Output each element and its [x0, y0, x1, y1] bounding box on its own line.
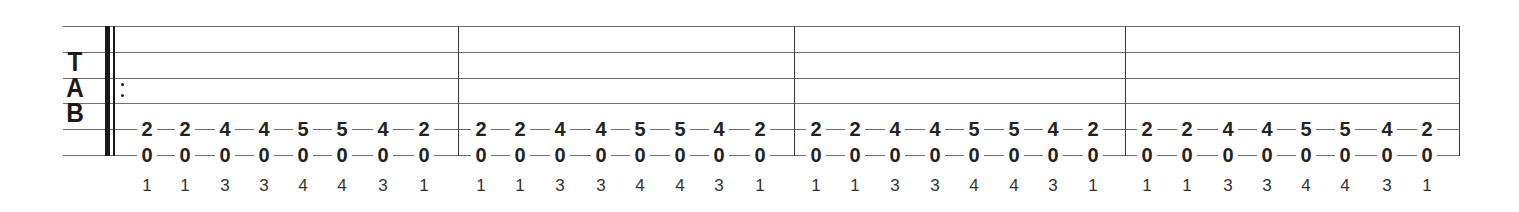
fingering-number: 3	[709, 177, 729, 195]
fret-string5: 4	[709, 120, 729, 138]
fret-string6: 0	[925, 146, 945, 164]
fret-string5: 2	[510, 120, 530, 138]
fingering-number: 3	[1218, 177, 1238, 195]
fret-string5: 2	[1137, 120, 1157, 138]
fingering-number: 3	[254, 177, 274, 195]
fret-string6: 0	[1218, 146, 1238, 164]
fret-string6: 0	[1417, 146, 1437, 164]
fingering-number: 1	[471, 177, 491, 195]
fret-string5: 2	[845, 120, 865, 138]
fret-string6: 0	[964, 146, 984, 164]
barline-3	[1125, 26, 1126, 156]
fret-string5: 2	[414, 120, 434, 138]
tab-clef-b: B	[66, 101, 84, 125]
fret-string5: 2	[1083, 120, 1103, 138]
tab-clef-a: A	[66, 76, 84, 100]
fingering-number: 4	[670, 177, 690, 195]
tab-clef-t: T	[66, 50, 84, 74]
fret-string6: 0	[885, 146, 905, 164]
start-repeat-thick-bar	[105, 26, 110, 156]
fret-string6: 0	[1335, 146, 1355, 164]
fingering-number: 1	[1083, 177, 1103, 195]
fret-string5: 4	[373, 120, 393, 138]
fret-string6: 0	[591, 146, 611, 164]
fret-string5: 4	[550, 120, 570, 138]
fingering-number: 4	[1335, 177, 1355, 195]
fingering-number: 3	[550, 177, 570, 195]
fret-string6: 0	[1296, 146, 1316, 164]
string-line-2	[63, 52, 1460, 53]
fret-string5: 4	[1257, 120, 1277, 138]
fret-string6: 0	[750, 146, 770, 164]
fingering-number: 1	[175, 177, 195, 195]
fingering-number: 1	[845, 177, 865, 195]
fingering-number: 1	[1137, 177, 1157, 195]
fret-string5: 4	[1377, 120, 1397, 138]
fret-string6: 0	[1137, 146, 1157, 164]
fingering-number: 1	[1417, 177, 1437, 195]
fret-string6: 0	[845, 146, 865, 164]
fret-string5: 5	[670, 120, 690, 138]
fret-string6: 0	[550, 146, 570, 164]
fingering-number: 1	[414, 177, 434, 195]
fret-string5: 2	[471, 120, 491, 138]
fingering-number: 3	[373, 177, 393, 195]
fret-string6: 0	[1177, 146, 1197, 164]
fret-string6: 0	[1004, 146, 1024, 164]
fret-string6: 0	[471, 146, 491, 164]
fingering-number: 4	[1004, 177, 1024, 195]
fingering-number: 3	[1043, 177, 1063, 195]
fingering-number: 3	[215, 177, 235, 195]
fret-string6: 0	[1083, 146, 1103, 164]
fret-string6: 0	[332, 146, 352, 164]
fret-string6: 0	[254, 146, 274, 164]
string-line-1	[63, 26, 1460, 27]
fingering-number: 4	[964, 177, 984, 195]
fret-string5: 4	[925, 120, 945, 138]
string-line-4	[63, 103, 1460, 104]
fret-string5: 5	[630, 120, 650, 138]
fret-string5: 2	[1177, 120, 1197, 138]
guitar-tab-staff: T A B 2012014034035045044032012012014034…	[0, 0, 1519, 212]
fret-string6: 0	[175, 146, 195, 164]
fret-string5: 5	[964, 120, 984, 138]
fret-string6: 0	[1377, 146, 1397, 164]
fingering-number: 4	[1296, 177, 1316, 195]
fingering-number: 4	[332, 177, 352, 195]
fret-string6: 0	[1043, 146, 1063, 164]
fret-string6: 0	[414, 146, 434, 164]
fret-string5: 5	[1335, 120, 1355, 138]
fingering-number: 1	[750, 177, 770, 195]
fingering-number: 3	[885, 177, 905, 195]
fret-string6: 0	[806, 146, 826, 164]
barline-1	[458, 26, 459, 156]
fingering-number: 4	[630, 177, 650, 195]
fret-string5: 2	[750, 120, 770, 138]
fingering-number: 4	[293, 177, 313, 195]
fingering-number: 3	[925, 177, 945, 195]
fret-string5: 4	[1043, 120, 1063, 138]
fret-string6: 0	[373, 146, 393, 164]
fret-string6: 0	[215, 146, 235, 164]
fret-string6: 0	[1257, 146, 1277, 164]
fret-string6: 0	[293, 146, 313, 164]
string-line-3	[63, 78, 1460, 79]
fingering-number: 1	[806, 177, 826, 195]
repeat-dot-lower	[121, 94, 124, 97]
fret-string6: 0	[670, 146, 690, 164]
barline-end	[1459, 26, 1460, 156]
fret-string5: 4	[215, 120, 235, 138]
fingering-number: 3	[1377, 177, 1397, 195]
fret-string5: 2	[806, 120, 826, 138]
fret-string5: 5	[293, 120, 313, 138]
fret-string6: 0	[510, 146, 530, 164]
fret-string5: 5	[1296, 120, 1316, 138]
fret-string5: 2	[175, 120, 195, 138]
fret-string5: 5	[1004, 120, 1024, 138]
fret-string5: 4	[1218, 120, 1238, 138]
start-repeat-thin-bar	[113, 26, 115, 156]
fingering-number: 1	[137, 177, 157, 195]
fret-string5: 4	[254, 120, 274, 138]
fingering-number: 3	[1257, 177, 1277, 195]
fret-string6: 0	[709, 146, 729, 164]
